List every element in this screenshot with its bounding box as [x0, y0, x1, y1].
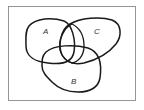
- set-c-label: C: [94, 27, 100, 36]
- venn-diagram: A C B: [0, 0, 144, 110]
- set-a-label: A: [42, 27, 48, 36]
- set-b-label: B: [71, 77, 77, 86]
